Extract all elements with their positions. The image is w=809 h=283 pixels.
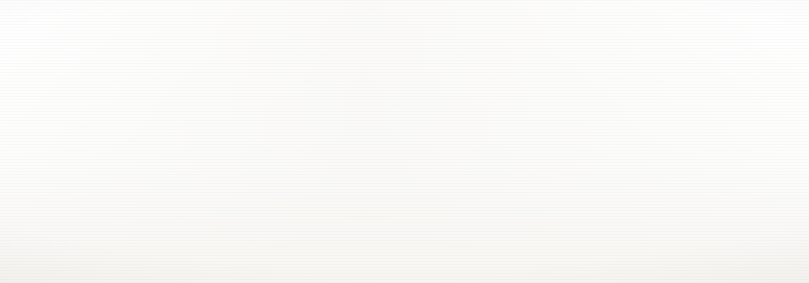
trilobite-illustration (192, 212, 232, 238)
lineage-band-flatworms (0, 194, 809, 204)
ammonite-illustration (148, 232, 182, 258)
bony-fish-branch-path (663, 47, 809, 104)
lineage-band-jellyfish (0, 167, 809, 176)
coral-illustration (222, 147, 252, 173)
lineage-band-echinoderms (0, 127, 809, 136)
armoured-fish-path (0, 67, 505, 105)
upper-tree-lineage-paths (0, 0, 809, 160)
lineage-band-chordates (0, 100, 809, 109)
extinction-dot-armoured-fish (501, 57, 521, 77)
brachiopod-shell-illustration (72, 104, 106, 130)
lineage-band-sponges (0, 154, 809, 163)
lineage-band-hemichordates (0, 140, 809, 149)
jellyfish-illustration (62, 162, 92, 194)
jawless-fish-art (462, 2, 528, 24)
jawless-fish-path (0, 0, 809, 14)
shark-art (570, 26, 644, 52)
period-divider-line (628, 0, 629, 283)
lineage-band-molluscs (0, 208, 809, 217)
figure-canvas (0, 0, 809, 283)
sea-lily-illustration (150, 96, 192, 118)
lineage-band-corals (0, 181, 809, 190)
lineage-band-annelids (0, 222, 809, 231)
lineage-band-arthropods (0, 235, 809, 244)
lineage-band-brachiopods (0, 113, 809, 122)
sea-fan-illustration (172, 180, 204, 210)
hemichordate-worm-illustration (58, 140, 98, 160)
